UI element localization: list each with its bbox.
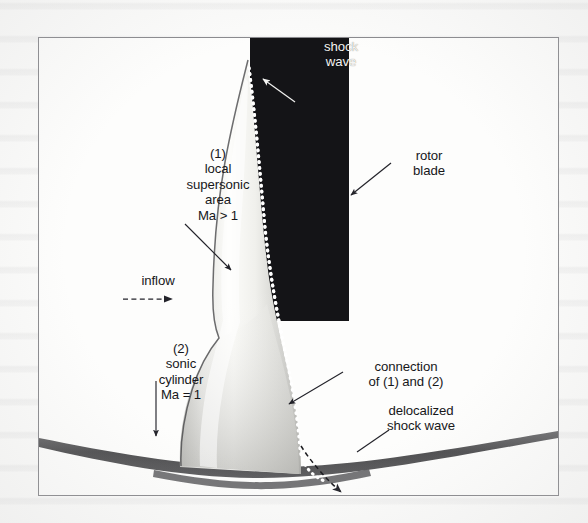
label-shock-wave: shock wave [300,39,382,70]
label-delocalized-shock-wave: delocalized shock wave [365,403,477,434]
label-connection: connection of (1) and (2) [347,359,465,390]
figure-page: shock wave rotor blade (1) local superso… [0,0,588,523]
figure-frame: shock wave rotor blade (1) local superso… [38,37,559,496]
label-local-supersonic-area: (1) local supersonic area Ma > 1 [158,146,278,223]
rotor-blade-leader [351,163,391,195]
label-inflow: inflow [121,273,195,288]
label-rotor-blade: rotor blade [389,148,469,179]
label-sonic-cylinder: (2) sonic cylinder Ma = 1 [129,341,233,403]
diagram-canvas [39,38,558,495]
connection-leader [289,372,343,404]
